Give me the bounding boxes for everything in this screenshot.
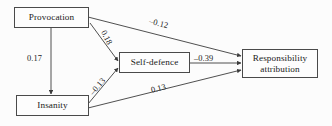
node-responsibility-attribution[interactable]: Responsibility attribution [242,49,318,78]
node-responsibility-label-line1: Responsibility [253,53,308,63]
node-responsibility-label-line2: attribution [260,64,299,74]
node-insanity[interactable]: Insanity [16,95,89,116]
node-self-defence-label: Self-defence [131,57,179,67]
node-provocation-label: Provocation [29,12,75,22]
edge-label-provocation-insanity: 0.17 [27,54,42,63]
edge-label-self-defence-responsibility: –0.39 [194,54,213,63]
path-diagram: Provocation Insanity Self-defence Respon… [0,0,332,126]
node-self-defence[interactable]: Self-defence [119,52,190,73]
node-insanity-label: Insanity [37,100,67,110]
node-provocation[interactable]: Provocation [14,7,89,28]
